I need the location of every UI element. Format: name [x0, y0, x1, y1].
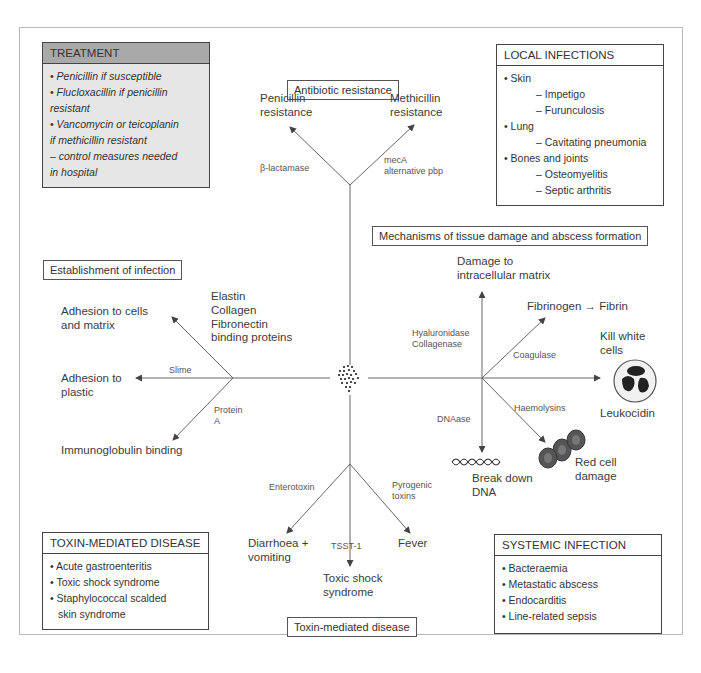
binding-proteins-label: Elastin Collagen Fibronectin binding pro…	[211, 290, 292, 345]
local-infections-title: LOCAL INFECTIONS	[497, 45, 663, 66]
local-infection-item: • Bones and joints	[504, 150, 656, 166]
systemic-infection-title: SYSTEMIC INFECTION	[495, 535, 661, 556]
toxin-disease-item: • Acute gastroenteritis	[50, 558, 201, 574]
treatment-item: in hospital	[50, 164, 202, 180]
local-infections-panel: LOCAL INFECTIONS • Skin – Impetigo – Fur…	[496, 44, 664, 206]
treatment-title: TREATMENT	[43, 43, 209, 64]
adhesion-cells-label: Adhesion to cells and matrix	[61, 305, 148, 333]
coagulase-label: Coagulase	[513, 350, 556, 361]
treatment-item: – control measures needed	[50, 148, 202, 164]
toxin-disease-item: • Staphylococcal scalded	[50, 590, 201, 606]
pyrogenic-toxins-label: Pyrogenic toxins	[392, 480, 432, 502]
bacteria-cluster-icon	[338, 365, 359, 392]
treatment-item: • Flucloxacillin if penicillin	[50, 84, 202, 100]
tsst1-label: TSST-1	[331, 541, 362, 552]
slime-label: Slime	[169, 365, 192, 376]
beta-lactamase-label: β-lactamase	[260, 163, 309, 174]
treatment-item: resistant	[50, 100, 202, 116]
penicillin-resistance-label: Penicillin resistance	[260, 92, 312, 120]
white-cell-icon	[614, 360, 656, 402]
meca-label: mecA alternative pbp	[384, 155, 443, 177]
systemic-item: • Metastatic abscess	[502, 576, 654, 592]
treatment-panel: TREATMENT • Penicillin if susceptible • …	[42, 42, 210, 188]
tissue-damage-title: Mechanisms of tissue damage and abscess …	[372, 226, 648, 246]
treatment-item: • Penicillin if susceptible	[50, 68, 202, 84]
adhesion-plastic-label: Adhesion to plastic	[61, 372, 122, 400]
toxin-mediated-panel: TOXIN-MEDIATED DISEASE • Acute gastroent…	[42, 532, 209, 630]
break-down-dna-label: Break down DNA	[472, 472, 533, 500]
fibrinogen-fibrin-label: Fibrinogen → Fibrin	[527, 300, 628, 314]
toxin-disease-item: skin syndrome	[50, 606, 201, 622]
local-infection-subitem: – Cavitating pneumonia	[504, 134, 656, 150]
local-infection-item: • Skin	[504, 70, 656, 86]
local-infection-item: • Lung	[504, 118, 656, 134]
haemolysins-label: Haemolysins	[514, 403, 566, 414]
fever-label: Fever	[398, 537, 427, 551]
toxin-mediated-panel-title: TOXIN-MEDIATED DISEASE	[43, 533, 208, 554]
protein-a-label: Protein A	[214, 405, 243, 427]
dnaase-label: DNAase	[437, 414, 471, 425]
damage-matrix-label: Damage to intracellular matrix	[457, 255, 550, 283]
enterotoxin-label: Enterotoxin	[269, 482, 315, 493]
leukocidin-label: Leukocidin	[600, 407, 655, 421]
systemic-infection-panel: SYSTEMIC INFECTION • Bacteraemia • Metas…	[494, 534, 662, 634]
systemic-item: • Endocarditis	[502, 592, 654, 608]
red-cell-damage-label: Red cell damage	[575, 456, 617, 484]
systemic-item: • Line-related sepsis	[502, 608, 654, 624]
local-infection-subitem: – Impetigo	[504, 86, 656, 102]
local-infection-subitem: – Osteomyelitis	[504, 166, 656, 182]
treatment-item: if methicillin resistant	[50, 132, 202, 148]
establishment-title: Establishment of infection	[43, 260, 182, 280]
hyaluronidase-label: Hyaluronidase Collagenase	[412, 328, 470, 350]
toxin-disease-item: • Toxic shock syndrome	[50, 574, 201, 590]
immunoglobulin-binding-label: Immunoglobulin binding	[61, 444, 182, 458]
local-infection-subitem: – Septic arthritis	[504, 182, 656, 198]
treatment-item: • Vancomycin or teicoplanin	[50, 116, 202, 132]
toxin-mediated-title: Toxin-mediated disease	[287, 617, 417, 637]
toxic-shock-label: Toxic shock syndrome	[323, 572, 382, 600]
diarrhoea-label: Diarrhoea + vomiting	[248, 537, 308, 565]
kill-white-cells-label: Kill white cells	[600, 330, 645, 358]
methicillin-resistance-label: Methicillin resistance	[390, 92, 442, 120]
systemic-item: • Bacteraemia	[502, 560, 654, 576]
local-infection-subitem: – Furunculosis	[504, 102, 656, 118]
